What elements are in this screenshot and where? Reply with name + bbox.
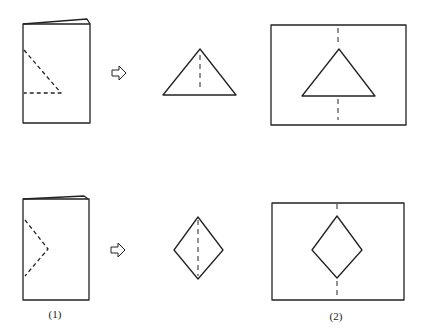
- unfolded-sheet-triangle: [271, 25, 406, 125]
- cut-line-triangle: [24, 50, 61, 93]
- step-2-label: (2): [330, 310, 343, 322]
- cut-line-diamond: [25, 220, 48, 276]
- folded-paper-triangle: [23, 19, 90, 123]
- unfolded-sheet-diamond: [272, 203, 404, 300]
- cut-diamond-piece: [174, 217, 223, 279]
- step-1-label: (1): [49, 308, 62, 320]
- right-arrow-icon: [112, 66, 126, 80]
- folding-diagram: [0, 0, 425, 333]
- folded-paper-diamond: [23, 196, 89, 300]
- right-arrow-icon: [111, 243, 125, 257]
- cut-triangle-piece: [163, 49, 236, 95]
